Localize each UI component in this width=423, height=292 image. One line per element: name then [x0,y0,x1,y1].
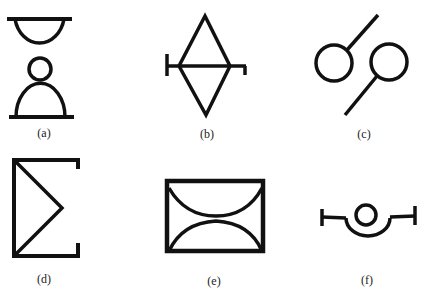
symbol-c-keyed-circles-icon [316,15,407,115]
label-b: (b) [200,127,214,142]
symbol-e-rectangle-arcs-icon [167,181,263,251]
symbol-d-sigma-icon [14,160,78,256]
label-e: (e) [207,274,220,289]
label-a: (a) [37,126,50,141]
label-c: (c) [357,127,370,142]
label-f: (f) [361,273,373,288]
label-d: (d) [37,272,51,287]
symbol-b-diamond-icon [166,16,246,115]
symbol-a-hourglass-icon [7,19,74,117]
symbol-f-cup-circle-icon [322,205,415,236]
symbols-figure [0,0,423,292]
